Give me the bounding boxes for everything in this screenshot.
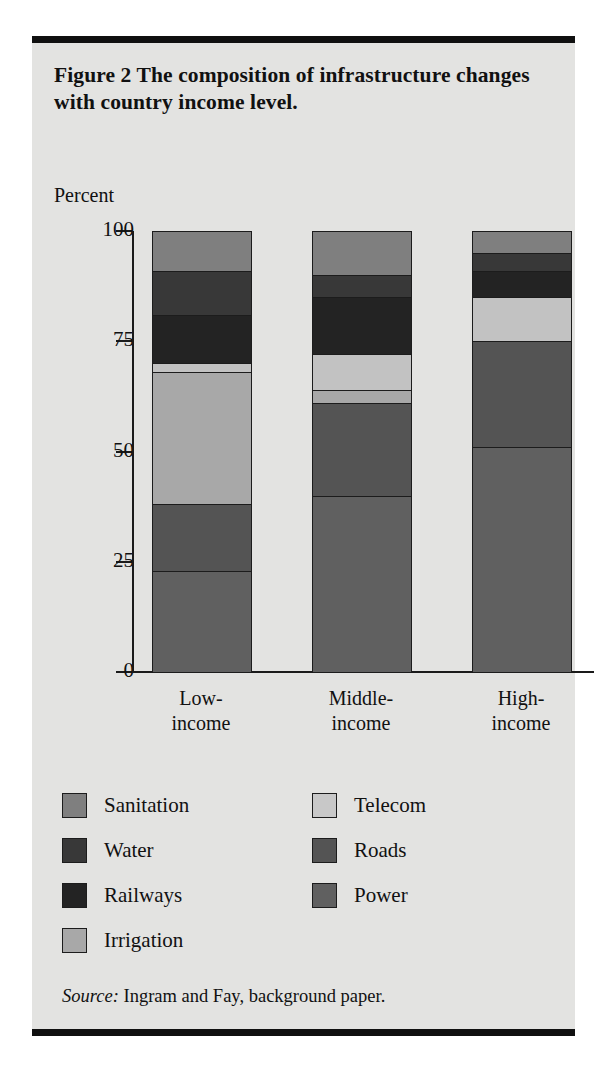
legend-label-power: Power: [354, 883, 408, 908]
segment-high-income-railways[interactable]: [473, 271, 571, 297]
legend-label-roads: Roads: [354, 838, 407, 863]
bar-middle-income[interactable]: [312, 231, 412, 672]
bottom-rule: [32, 1029, 575, 1036]
y-axis-line: [132, 231, 134, 672]
x-label-high-income: High-income: [441, 686, 601, 736]
segment-low-income-telecom[interactable]: [153, 363, 251, 372]
legend-swatch-telecom: [312, 793, 337, 818]
x-label-line2: income: [121, 711, 281, 736]
y-tick-label-100: 100: [82, 217, 134, 242]
legend-swatch-sanitation: [62, 793, 87, 818]
segment-middle-income-railways[interactable]: [313, 297, 411, 354]
segment-high-income-sanitation[interactable]: [473, 231, 571, 253]
legend-swatch-roads: [312, 838, 337, 863]
bar-base-middle-income: [313, 672, 411, 673]
legend-label-telecom: Telecom: [354, 793, 426, 818]
x-label-line1: High-: [441, 686, 601, 711]
segment-middle-income-telecom[interactable]: [313, 354, 411, 389]
segment-low-income-water[interactable]: [153, 271, 251, 315]
legend-label-railways: Railways: [104, 883, 182, 908]
x-label-line1: Middle-: [281, 686, 441, 711]
legend-item-telecom[interactable]: Telecom: [312, 793, 426, 818]
legend-swatch-water: [62, 838, 87, 863]
source-note: Source: Ingram and Fay, background paper…: [62, 986, 385, 1007]
legend-item-sanitation[interactable]: Sanitation: [62, 793, 189, 818]
chart-plot-area: 0255075100 Low-incomeMiddle-incomeHigh-i…: [54, 186, 559, 706]
segment-high-income-water[interactable]: [473, 253, 571, 271]
segment-middle-income-irrigation[interactable]: [313, 390, 411, 403]
y-tick-label-50: 50: [82, 438, 134, 463]
segment-low-income-railways[interactable]: [153, 315, 251, 364]
segment-low-income-roads[interactable]: [153, 504, 251, 570]
legend-item-water[interactable]: Water: [62, 838, 154, 863]
y-axis-ticks: 0255075100: [54, 186, 134, 686]
source-text: Ingram and Fay, background paper.: [119, 986, 385, 1006]
segment-low-income-power[interactable]: [153, 571, 251, 672]
chart-legend: SanitationTelecomWaterRoadsRailwaysPower…: [62, 793, 552, 953]
bar-base-high-income: [473, 672, 571, 673]
x-label-line2: income: [441, 711, 601, 736]
legend-swatch-railways: [62, 883, 87, 908]
segment-middle-income-sanitation[interactable]: [313, 231, 411, 275]
x-label-middle-income: Middle-income: [281, 686, 441, 736]
segment-middle-income-power[interactable]: [313, 496, 411, 672]
legend-swatch-irrigation: [62, 928, 87, 953]
figure-title: Figure 2 The composition of infrastructu…: [54, 62, 554, 116]
top-rule: [32, 36, 575, 43]
x-label-low-income: Low-income: [121, 686, 281, 736]
segment-high-income-roads[interactable]: [473, 341, 571, 447]
legend-item-railways[interactable]: Railways: [62, 883, 182, 908]
bar-base-low-income: [153, 672, 251, 673]
figure-panel: Figure 2 The composition of infrastructu…: [32, 36, 575, 1036]
legend-label-irrigation: Irrigation: [104, 928, 183, 953]
segment-low-income-sanitation[interactable]: [153, 231, 251, 271]
legend-label-sanitation: Sanitation: [104, 793, 189, 818]
segment-high-income-power[interactable]: [473, 447, 571, 672]
bar-high-income[interactable]: [472, 231, 572, 672]
segment-low-income-irrigation[interactable]: [153, 372, 251, 504]
bar-low-income[interactable]: [152, 231, 252, 672]
segment-middle-income-water[interactable]: [313, 275, 411, 297]
legend-item-irrigation[interactable]: Irrigation: [62, 928, 183, 953]
segment-middle-income-roads[interactable]: [313, 403, 411, 496]
x-label-line1: Low-: [121, 686, 281, 711]
legend-label-water: Water: [104, 838, 154, 863]
x-label-line2: income: [281, 711, 441, 736]
legend-item-roads[interactable]: Roads: [312, 838, 407, 863]
y-tick-label-75: 75: [82, 327, 134, 352]
segment-high-income-telecom[interactable]: [473, 297, 571, 341]
legend-item-power[interactable]: Power: [312, 883, 408, 908]
source-prefix: Source:: [62, 986, 119, 1006]
legend-swatch-power: [312, 883, 337, 908]
y-tick-label-25: 25: [82, 548, 134, 573]
y-tick-label-0: 0: [82, 658, 134, 683]
